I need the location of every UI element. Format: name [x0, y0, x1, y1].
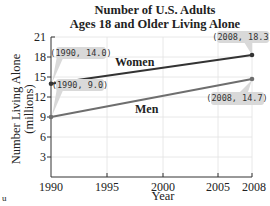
line-chart: 21 18 15 12 9 6 3 1990 1995 2000 2005 20…	[0, 0, 270, 206]
x-tick-1995: 1995	[95, 180, 119, 194]
y-tick-21: 21	[34, 30, 46, 44]
callout-men-2008: (2008, 14.7)	[206, 92, 267, 105]
women-label: Women	[115, 55, 155, 69]
corner-mark: u	[2, 193, 7, 203]
men-point-1990	[49, 115, 54, 120]
callout-text: (1990, 9.0)	[52, 80, 108, 90]
women-point-2008	[250, 53, 255, 58]
y-tick-9: 9	[40, 110, 46, 124]
callout-text: (2008, 18.3)	[212, 32, 270, 42]
callout-women-1990: (1990, 14.0)	[50, 47, 111, 59]
y-tick-3: 3	[40, 150, 46, 164]
y-tick-6: 6	[40, 130, 46, 144]
y-axis-label-units: (millions)	[23, 44, 36, 174]
men-label: Men	[135, 102, 159, 116]
x-tick-2008: 2008	[242, 180, 266, 194]
callout-text: (1990, 14.0)	[50, 48, 111, 58]
y-axis-label: Number Living Alone (millions)	[10, 44, 36, 174]
callout-men-1990: (1990, 9.0)	[52, 79, 108, 91]
x-tick-2005: 2005	[206, 180, 230, 194]
callout-text: (2008, 14.7)	[206, 93, 267, 103]
x-tick-1990: 1990	[39, 180, 63, 194]
callout-women-2008: (2008, 18.3)	[212, 31, 270, 43]
x-axis-label: Year	[128, 189, 198, 204]
men-point-2008	[250, 77, 255, 82]
